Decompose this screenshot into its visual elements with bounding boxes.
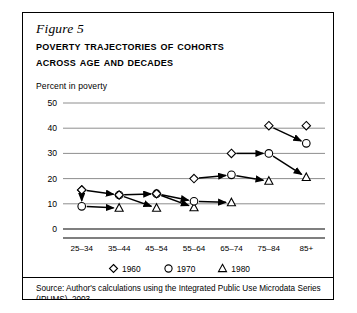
circle-marker bbox=[163, 263, 174, 274]
triangle-marker-1980 bbox=[265, 177, 273, 185]
legend-label: 1960 bbox=[122, 264, 141, 274]
triangle-marker bbox=[217, 263, 228, 274]
x-tick-label: 55–64 bbox=[183, 244, 206, 253]
circle-marker-1970 bbox=[228, 171, 236, 179]
trajectory-segment bbox=[273, 128, 301, 141]
plot-area: 01020304050 25–3435–4445–5455–6465–7475–… bbox=[23, 95, 334, 255]
legend-label: 1980 bbox=[231, 264, 250, 274]
triangle-marker-1980 bbox=[302, 173, 310, 181]
y-axis-title: Percent in poverty bbox=[36, 81, 107, 91]
y-tick-labels-group: 01020304050 bbox=[47, 98, 57, 234]
triangle-marker-1980 bbox=[153, 204, 161, 212]
y-tick-label-0: 0 bbox=[52, 224, 57, 234]
trajectory-segment bbox=[236, 176, 263, 181]
x-tick-label: 65–74 bbox=[220, 244, 243, 253]
figure-container: Figure 5 Poverty Trajectories of Cohorts… bbox=[22, 12, 334, 300]
source-note: Source: Author's calculations using the … bbox=[36, 283, 322, 300]
x-tick-labels-group: 25–3435–4445–5455–6465–7475–8485+ bbox=[70, 244, 313, 253]
trajectory-segment bbox=[273, 156, 301, 174]
legend-item: 1960 bbox=[108, 263, 141, 274]
circle-marker-1970 bbox=[302, 140, 310, 148]
gridlines-group bbox=[63, 103, 325, 238]
source-divider bbox=[23, 277, 334, 278]
x-tick-label: 25–34 bbox=[70, 244, 93, 253]
y-tick-label-40: 40 bbox=[47, 123, 57, 133]
x-tick-label: 75–84 bbox=[258, 244, 281, 253]
y-tick-label-20: 20 bbox=[47, 174, 57, 184]
y-tick-label-50: 50 bbox=[47, 98, 57, 108]
figure-number: Figure 5 bbox=[36, 21, 84, 37]
trajectory-segment bbox=[199, 201, 226, 202]
figure-title-line-2: Across Age and Decades bbox=[36, 55, 326, 71]
series-group bbox=[78, 121, 311, 211]
diamond-marker-1960 bbox=[227, 149, 235, 157]
y-tick-label-10: 10 bbox=[47, 199, 57, 209]
triangle-marker-1980 bbox=[115, 204, 123, 212]
x-tick-label: 45–54 bbox=[145, 244, 168, 253]
x-tick-label: 35–44 bbox=[108, 244, 131, 253]
legend-item: 1980 bbox=[217, 263, 250, 274]
circle-marker-1970 bbox=[265, 150, 273, 158]
trajectory-segment bbox=[124, 197, 151, 207]
diamond-marker-1960 bbox=[190, 174, 198, 182]
diamond-marker-1960 bbox=[78, 186, 86, 194]
y-tick-label-30: 30 bbox=[47, 148, 57, 158]
triangle-marker-1980 bbox=[227, 198, 235, 206]
trajectory-segment bbox=[87, 191, 114, 195]
figure-title-line-1: Poverty Trajectories of Cohorts bbox=[36, 39, 326, 55]
circle-marker-1970 bbox=[190, 197, 198, 205]
legend-item: 1970 bbox=[163, 263, 196, 274]
diamond-marker bbox=[108, 263, 119, 274]
circle-marker-1970 bbox=[78, 203, 86, 211]
trajectory-segment bbox=[199, 175, 226, 178]
trajectory-segment bbox=[87, 207, 114, 208]
figure-title: Poverty Trajectories of Cohorts Across A… bbox=[36, 39, 326, 70]
chart-legend: 196019701980 bbox=[23, 263, 334, 274]
legend-label: 1970 bbox=[177, 264, 196, 274]
poverty-trajectory-chart: 01020304050 25–3435–4445–5455–6465–7475–… bbox=[23, 95, 334, 257]
x-tick-label: 85+ bbox=[299, 244, 313, 253]
trajectory-segment bbox=[124, 194, 151, 195]
